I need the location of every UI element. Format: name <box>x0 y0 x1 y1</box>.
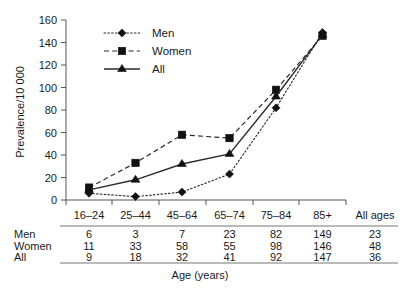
table-row-men: Men 6 3 7 23 82 149 23 <box>14 228 381 240</box>
table-cell-all-45-64: 32 <box>176 251 188 263</box>
women-point-65-74 <box>226 134 233 141</box>
table-cell-men-25-44: 3 <box>132 228 138 240</box>
x-label-85-plus: 85+ <box>313 209 332 221</box>
men-point-65-74 <box>226 170 234 178</box>
table-cell-all-75-84: 92 <box>270 251 282 263</box>
x-label-25-44: 25–44 <box>120 209 151 221</box>
table-rowlabel-men: Men <box>14 228 35 240</box>
y-tick-label-160: 160 <box>39 14 57 26</box>
chart-legend: Men Women All <box>104 27 191 75</box>
men-point-25-44 <box>132 193 140 201</box>
square-marker-icon <box>118 47 125 54</box>
legend-item-all[interactable]: All <box>104 63 165 75</box>
y-tick-label-140: 140 <box>39 37 57 49</box>
y-tick-label-0: 0 <box>51 194 57 206</box>
table-cell-all-85-plus: 147 <box>313 251 331 263</box>
x-label-75-84: 75–84 <box>261 209 292 221</box>
x-label-all-ages: All ages <box>355 209 395 221</box>
series-women <box>85 32 326 191</box>
diamond-marker-icon <box>118 29 126 37</box>
table-cell-all-16-24: 9 <box>86 251 92 263</box>
triangle-marker-icon <box>118 65 127 72</box>
y-tick-label-100: 100 <box>39 82 57 94</box>
x-label-65-74: 65–74 <box>214 209 245 221</box>
chart-canvas: Prevalence/10 000 160 140 120 100 80 60 … <box>0 0 410 295</box>
table-cell-men-45-64: 7 <box>179 228 185 240</box>
x-axis <box>66 200 346 205</box>
table-cell-all-65-74: 41 <box>223 251 235 263</box>
y-tick-label-20: 20 <box>45 172 57 184</box>
women-point-45-64 <box>178 131 185 138</box>
women-point-25-44 <box>132 159 139 166</box>
data-table: Men 6 3 7 23 82 149 23 Women 11 33 58 55… <box>14 226 398 263</box>
y-tick-label-80: 80 <box>45 104 57 116</box>
y-tick-label-120: 120 <box>39 59 57 71</box>
y-tick-label-40: 40 <box>45 149 57 161</box>
table-cell-men-65-74: 23 <box>223 228 235 240</box>
legend-label-women: Women <box>152 45 191 57</box>
x-label-16-24: 16–24 <box>74 209 105 221</box>
series-men-line <box>89 32 323 196</box>
y-axis-title: Prevalence/10 000 <box>14 66 26 158</box>
prevalence-by-age-figure: Prevalence/10 000 160 140 120 100 80 60 … <box>0 0 410 295</box>
y-tick-label-60: 60 <box>45 127 57 139</box>
x-label-45-64: 45–64 <box>167 209 198 221</box>
table-cell-men-85-plus: 149 <box>313 228 331 240</box>
legend-item-men[interactable]: Men <box>104 27 174 39</box>
x-axis-title-text: Age (years) <box>172 269 229 281</box>
series-women-line <box>89 36 323 188</box>
table-cell-all-all-ages: 36 <box>369 251 381 263</box>
men-point-45-64 <box>178 188 186 196</box>
legend-label-all: All <box>152 63 165 75</box>
table-cell-men-75-84: 82 <box>270 228 282 240</box>
table-cell-all-25-44: 18 <box>129 251 141 263</box>
legend-label-men: Men <box>152 27 174 39</box>
table-cell-men-all-ages: 23 <box>369 228 381 240</box>
men-point-75-84 <box>272 104 280 112</box>
table-cell-men-16-24: 6 <box>86 228 92 240</box>
x-category-labels: 16–24 25–44 45–64 65–74 75–84 85+ All ag… <box>74 209 395 221</box>
series-all-line <box>89 35 323 190</box>
table-row-all: All 9 18 32 41 92 147 36 <box>14 251 381 263</box>
legend-item-women[interactable]: Women <box>104 45 191 57</box>
y-axis-title-text: Prevalence/10 000 <box>14 66 26 158</box>
table-rowlabel-all: All <box>14 251 26 263</box>
y-axis: 160 140 120 100 80 60 40 20 0 <box>39 14 66 206</box>
